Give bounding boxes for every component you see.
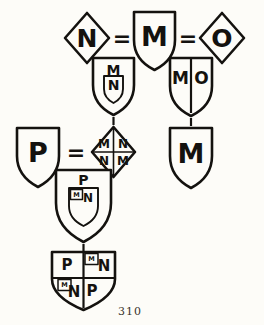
node-p-shield: P — [17, 128, 59, 187]
charge-letter-p: P — [28, 137, 48, 168]
quarter-4-letter-m: M — [117, 154, 129, 168]
final-quarter-3-letter-n: N — [68, 283, 81, 301]
final-quarter-4-letter-p: P — [87, 282, 98, 300]
heraldic-diagram: N = M = O M N M O — [0, 0, 264, 325]
equals-sign-2: = — [179, 26, 197, 51]
quarter-2-letter-n: N — [118, 137, 128, 151]
final-quarter-2-canton-letter-m: M — [88, 255, 94, 263]
charge-letter-p-escutcheon-p: P — [78, 172, 88, 188]
charge-letter-mo-o: O — [194, 68, 208, 88]
equals-sign-3: = — [67, 140, 85, 165]
figure-page: N = M = O M N M O — [0, 0, 264, 325]
folio-number: 310 — [118, 305, 142, 318]
charge-letter-o: O — [211, 24, 232, 53]
node-o-lozenge: O — [200, 13, 244, 63]
node-m-plain-shield: M — [170, 128, 212, 188]
node-p-escutcheon-shield: P M N — [56, 170, 111, 242]
charge-letter-n: N — [77, 24, 98, 53]
charge-letter-m-plain: M — [178, 138, 205, 169]
charge-letter-mn-n: N — [108, 77, 120, 93]
final-quarter-2-letter-n: N — [98, 257, 111, 275]
node-n-lozenge: N — [65, 13, 109, 63]
quarter-1-letter-m: M — [98, 137, 110, 151]
equals-sign-1: = — [113, 26, 131, 51]
charge-letter-p-escutcheon-n: N — [83, 191, 93, 205]
node-mn-escutcheon-shield: M N — [93, 58, 134, 115]
canton-letter-m-p-escutcheon: M — [73, 191, 79, 199]
charge-letter-mo-m: M — [172, 68, 189, 88]
node-mo-shield: M O — [170, 58, 212, 116]
charge-letter-m: M — [141, 21, 168, 52]
quarter-3-letter-n: N — [99, 154, 109, 168]
final-quarter-1-letter-p: P — [62, 256, 73, 274]
node-pnnp-quartered-shield: P M N M N P — [52, 252, 115, 310]
